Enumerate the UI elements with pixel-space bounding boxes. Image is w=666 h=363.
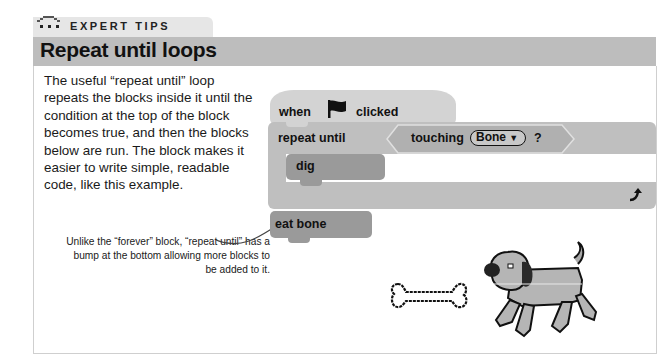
touching-label: touching [411,131,464,145]
loop-arrow-icon [628,187,644,203]
sprite-dropdown[interactable]: Bone ▼ [470,130,526,146]
chevron-down-icon: ▼ [509,133,518,143]
dropdown-value: Bone [476,130,506,144]
block-bump [288,237,310,243]
dog-sprite [482,240,602,340]
bone-sprite [388,280,470,314]
condition-suffix: ? [534,131,542,145]
eat-bone-block[interactable]: eat bone [270,211,372,238]
clicked-label: clicked [356,105,398,119]
green-flag-icon [326,98,348,120]
when-label: when [279,105,311,119]
repeat-until-label: repeat until [278,131,345,145]
when-flag-clicked-block[interactable]: when clicked [270,90,456,125]
block-notch [286,121,308,127]
block-bump [300,180,322,186]
repeat-until-bottom [268,182,656,209]
repeat-until-arm [268,154,286,184]
dig-block[interactable]: dig [286,154,385,180]
eat-bone-label: eat bone [275,217,326,231]
dig-label: dig [296,159,315,173]
